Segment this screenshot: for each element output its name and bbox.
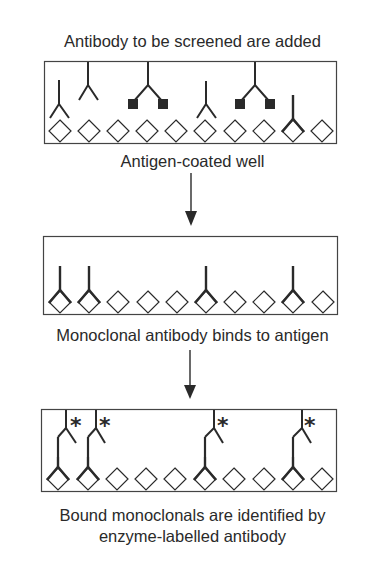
antibody-free-icon: [197, 81, 216, 118]
antibody-blocked-icon: [128, 62, 168, 109]
enzyme-label-icon: [70, 413, 82, 438]
arrow-down-icon: [185, 173, 197, 226]
antibody-free-icon: [50, 80, 69, 118]
arrow-down-icon: [184, 350, 196, 399]
enzyme-label-icon: [304, 413, 316, 438]
well-2: [44, 237, 338, 315]
antibody-free-icon: [79, 62, 98, 100]
antibody-blocked-icon: [235, 62, 275, 109]
well-3: [42, 410, 337, 492]
enzyme-label-icon: [99, 413, 111, 438]
well-1: [45, 62, 337, 144]
elisa-diagram: *: [0, 0, 385, 568]
enzyme-label-icon: [217, 413, 229, 438]
